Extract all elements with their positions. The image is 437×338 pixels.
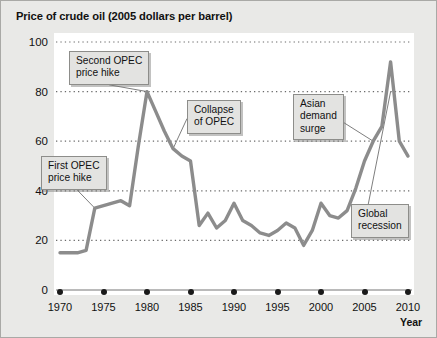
x-tick-marker-2000 (318, 289, 324, 295)
y-tick-0: 0 (14, 284, 48, 296)
y-tick-100: 100 (14, 36, 48, 48)
x-tick-marker-1980 (144, 289, 150, 295)
annotation-collapse-of-opec: Collapse of OPEC (187, 100, 241, 134)
annotation-second-opec-price-hike: Second OPEC price hike (69, 51, 149, 85)
leader-line-collapse-of-opec (173, 119, 187, 149)
x-tick-marker-1975 (101, 289, 107, 295)
x-tick-1995: 1995 (258, 301, 298, 313)
x-tick-1985: 1985 (171, 301, 211, 313)
x-tick-marker-2010 (405, 289, 411, 295)
x-tick-marker-1985 (188, 289, 194, 295)
x-tick-2000: 2000 (301, 301, 341, 313)
y-tick-20: 20 (14, 234, 48, 246)
annotation-first-opec-price-hike: First OPEC price hike (41, 156, 107, 190)
leader-line-first-opec-price-hike (77, 190, 95, 208)
y-tick-80: 80 (14, 86, 48, 98)
x-tick-1975: 1975 (84, 301, 124, 313)
x-axis-label: Year (400, 316, 422, 328)
annotation-global-recession: Global recession (351, 204, 409, 238)
leader-line-second-opec-price-hike (109, 85, 147, 92)
annotation-asian-demand-surge: Asian demand surge (293, 94, 344, 140)
x-tick-marker-1990 (231, 289, 237, 295)
x-tick-marker-1995 (275, 289, 281, 295)
x-tick-2010: 2010 (388, 301, 428, 313)
x-tick-1980: 1980 (127, 301, 167, 313)
leader-line-asian-demand-surge (344, 123, 373, 142)
y-tick-60: 60 (14, 135, 48, 147)
x-tick-2005: 2005 (345, 301, 385, 313)
x-tick-marker-2005 (362, 289, 368, 295)
chart-figure: Price of crude oil (2005 dollars per bar… (0, 0, 437, 338)
x-tick-marker-1970 (57, 289, 63, 295)
x-tick-1990: 1990 (214, 301, 254, 313)
x-tick-1970: 1970 (40, 301, 80, 313)
chart-title: Price of crude oil (2005 dollars per bar… (16, 10, 232, 22)
